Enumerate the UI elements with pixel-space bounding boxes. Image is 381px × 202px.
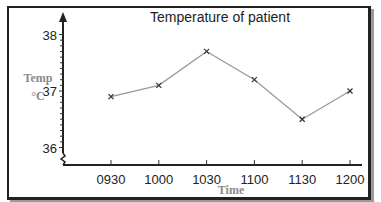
y-axis-arrow-icon <box>59 12 67 22</box>
x-tick-label: 1000 <box>144 172 173 187</box>
x-marker-icon <box>300 117 305 122</box>
line-chart: Temperature of patient 363738 0930100010… <box>0 0 381 202</box>
y-tick-label: 36 <box>43 141 57 156</box>
x-marker-icon <box>204 49 209 54</box>
axis-break-icon <box>61 153 65 165</box>
x-axis-label: Time <box>218 183 245 197</box>
y-tick-label: 38 <box>43 28 57 43</box>
y-axis-label-line1: Temp <box>24 71 53 85</box>
x-tick-label: 0930 <box>97 172 126 187</box>
x-marker-icon <box>252 77 257 82</box>
chart-title: Temperature of patient <box>150 9 290 25</box>
data-series <box>109 49 353 122</box>
x-tick-label: 1130 <box>288 172 316 187</box>
y-axis-label-line2: °C <box>31 89 44 103</box>
temperature-line <box>111 51 350 119</box>
y-axis: 363738 <box>43 12 67 165</box>
x-tick-label: 1030 <box>192 172 221 187</box>
x-marker-icon <box>348 89 353 94</box>
x-axis: 093010001030110011301200 <box>63 160 364 187</box>
x-tick-label: 1200 <box>336 172 365 187</box>
x-tick-label: 1100 <box>240 172 268 187</box>
